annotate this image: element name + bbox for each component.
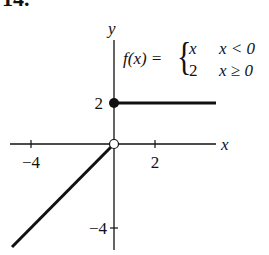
case-2-condition: x ≥ 0 [218, 61, 253, 80]
case-1-expr: x [188, 39, 197, 58]
open-circle-origin [110, 140, 119, 149]
x-axis-label: x [220, 135, 229, 154]
y-axis-label: y [106, 19, 116, 38]
y-tick-label-neg4: −4 [89, 219, 108, 238]
function-definition: f(x) = { x x < 0 2 x ≥ 0 [123, 34, 256, 80]
case-1-condition: x < 0 [218, 39, 256, 58]
x-tick-label-neg4: −4 [22, 153, 41, 172]
x-tick-label-2: 2 [151, 153, 160, 172]
function-label: f(x) = [123, 49, 162, 68]
piecewise-graph: −4 2 2 −4 x y f(x) = { x x < 0 2 x ≥ 0 [0, 0, 269, 255]
problem-number: 14. [2, 0, 30, 12]
closed-dot-0-2 [109, 98, 119, 108]
case-2-expr: 2 [189, 61, 198, 80]
graph-figure: 14. −4 2 2 −4 x y f(x) = { x x < 0 2 x ≥… [0, 0, 269, 255]
y-tick-label-2: 2 [95, 94, 104, 113]
